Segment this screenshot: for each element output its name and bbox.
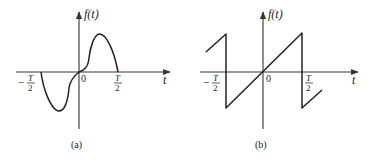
y-axis-label-b: f(t): [268, 7, 283, 21]
svg-text:2: 2: [28, 83, 33, 93]
curve-b: [206, 33, 322, 108]
svg-text:2: 2: [306, 83, 311, 93]
origin-label-a: 0: [81, 73, 86, 84]
caption-a: (a): [71, 139, 82, 151]
svg-text:T: T: [213, 73, 219, 83]
tick-neg-half-period-a: − T 2: [18, 73, 35, 93]
tick-neg-half-period-b: − T 2: [203, 73, 220, 93]
svg-text:−: −: [203, 76, 209, 88]
caption-b: (b): [255, 139, 267, 151]
svg-text:−: −: [18, 76, 24, 88]
tick-pos-half-period-b: T 2: [305, 73, 313, 93]
origin-label-b: 0: [266, 73, 271, 84]
figure-canvas: f(t) t 0 − T 2 T 2 (a) f(t) t 0 − T 2 T: [0, 0, 373, 161]
y-axis-label-a: f(t): [84, 7, 99, 21]
x-axis-label-a: t: [163, 73, 167, 87]
x-axis-label-b: t: [352, 73, 356, 87]
tick-pos-half-period-a: T 2: [114, 73, 122, 93]
svg-text:2: 2: [213, 83, 218, 93]
svg-text:2: 2: [115, 83, 120, 93]
svg-text:T: T: [28, 73, 34, 83]
svg-text:T: T: [306, 73, 312, 83]
plot-a: f(t) t 0 − T 2 T 2 (a): [16, 7, 170, 151]
svg-text:T: T: [115, 73, 121, 83]
plot-b: f(t) t 0 − T 2 T 2 (b): [200, 7, 358, 151]
